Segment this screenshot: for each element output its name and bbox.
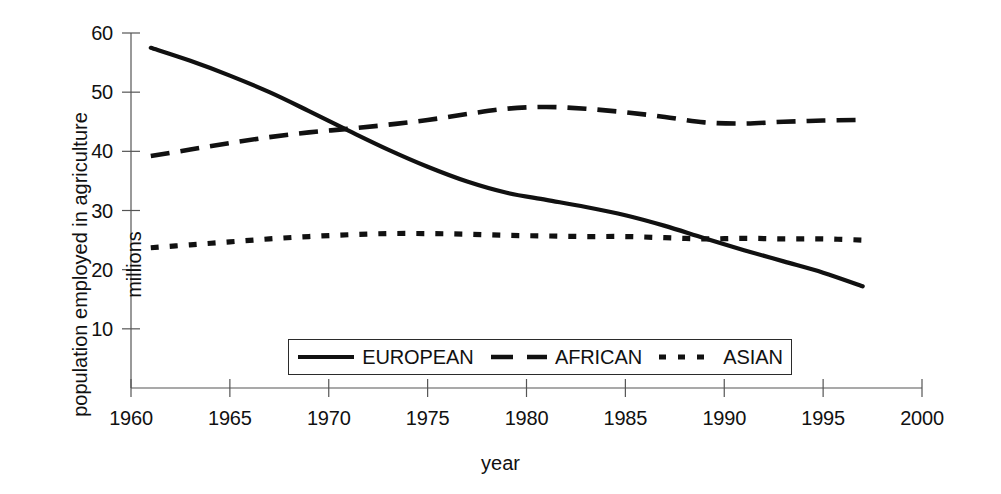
legend-swatch-african-icon — [490, 350, 548, 364]
series-line-european — [151, 48, 863, 286]
axis-lines — [131, 33, 922, 388]
x-axis-tick-label: 1985 — [604, 407, 648, 430]
series-line-african — [151, 107, 863, 156]
x-axis-tick-label: 1990 — [702, 407, 746, 430]
legend-item-african[interactable]: AFRICAN — [490, 346, 642, 369]
x-axis-tick-label: 1980 — [505, 407, 549, 430]
y-axis-title-line-2: millions — [121, 55, 148, 475]
x-axis-tick-label: 2000 — [900, 407, 944, 430]
chart-figure: 102030405060 196019651970197519801985199… — [0, 0, 1001, 494]
legend-label: EUROPEAN — [362, 346, 473, 369]
legend-item-european[interactable]: EUROPEAN — [297, 346, 473, 369]
legend-item-asian[interactable]: ASIAN — [658, 346, 783, 369]
chart-legend: EUROPEANAFRICANASIAN — [288, 339, 792, 375]
y-axis-title: population employed in agriculture milli… — [40, 55, 175, 475]
x-axis-tick-label: 1975 — [406, 407, 450, 430]
legend-swatch-european-icon — [297, 350, 355, 364]
data-series-group — [151, 48, 863, 286]
x-axis-tick-label: 1965 — [208, 407, 252, 430]
x-axis-tick-label: 1995 — [801, 407, 845, 430]
series-line-asian — [151, 233, 863, 247]
legend-swatch-asian-icon — [658, 350, 716, 364]
legend-label: ASIAN — [723, 346, 783, 369]
x-axis-tick-label: 1970 — [307, 407, 351, 430]
y-axis-tick-label: 60 — [55, 22, 113, 45]
x-axis-title: year — [0, 452, 1001, 475]
legend-label: AFRICAN — [555, 346, 642, 369]
y-axis-title-line-1: population employed in agriculture — [67, 55, 94, 475]
